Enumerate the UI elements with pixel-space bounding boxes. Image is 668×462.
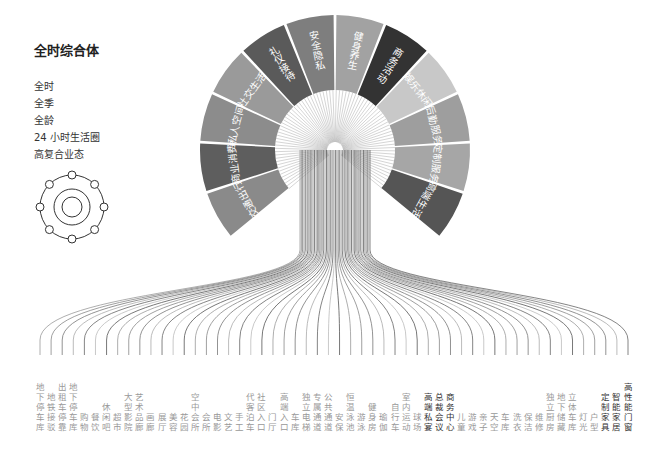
- flow-lines: [40, 150, 628, 355]
- bottom-label-char: 梯: [302, 422, 311, 432]
- bottom-label-char: 型: [590, 422, 599, 432]
- bottom-label-char: 车: [291, 412, 300, 422]
- bottom-label-char: 体: [568, 402, 577, 412]
- bottom-label-char: 厨: [546, 412, 555, 422]
- bottom-label-char: 租: [58, 392, 67, 402]
- diagram-canvas: 交通出行商业消费私人空间社交生活礼仪接待安全隐私健身养生商务活动娱乐休闲后勤服务…: [0, 0, 668, 462]
- bottom-label-char: 术: [135, 402, 144, 412]
- bottom-label-char: 所: [202, 422, 211, 432]
- bottom-label-char: 居: [612, 422, 621, 432]
- bottom-label-char: 社: [257, 392, 266, 402]
- bottom-label-char: 性: [624, 392, 633, 402]
- bottom-label-char: 中: [191, 402, 200, 412]
- bottom-label-char: 自: [391, 402, 400, 412]
- bottom-label-char: 私: [424, 412, 433, 422]
- bottom-label-char: 车: [246, 422, 255, 432]
- bottom-label-char: 空: [490, 422, 499, 432]
- bottom-label-char: 画: [146, 412, 155, 422]
- bottom-label-char: 中: [446, 412, 455, 422]
- bottom-label-char: 库: [69, 422, 78, 432]
- bottom-label-char: 高: [624, 382, 633, 392]
- bottom-label-char: 会: [202, 412, 211, 422]
- bottom-label-char: 家: [612, 412, 621, 422]
- bottom-label-char: 保: [524, 412, 533, 422]
- bottom-label-char: 口: [257, 422, 266, 432]
- bottom-label-char: 立: [568, 392, 577, 402]
- bottom-label-char: 安: [335, 412, 344, 422]
- bottom-label-char: 容: [169, 422, 178, 432]
- bottom-label-char: 场: [413, 422, 422, 432]
- bottom-label-char: 电: [302, 412, 311, 422]
- bottom-label-char: 通: [313, 412, 322, 422]
- bottom-label-char: 端: [280, 402, 289, 412]
- bottom-label-char: 通: [324, 412, 333, 422]
- bottom-label-char: 藏: [557, 422, 566, 432]
- bottom-label-char: 能: [612, 402, 621, 412]
- bottom-label-char: 行: [391, 412, 400, 422]
- bottom-label-char: 独: [546, 392, 555, 402]
- bottom-label-char: 艺: [224, 422, 233, 432]
- bottom-label-char: 室: [402, 392, 411, 402]
- bottom-label-char: 修: [535, 422, 544, 432]
- bottom-label-char: 文: [224, 412, 233, 422]
- bottom-label-char: 保: [335, 422, 344, 432]
- bottom-label-char: 健: [368, 402, 377, 412]
- bottom-label-char: 户: [590, 412, 599, 422]
- bottom-label-char: 大: [124, 392, 133, 402]
- bottom-label-char: 公: [324, 392, 333, 402]
- bottom-label-char: 驳: [47, 422, 56, 432]
- bottom-label-char: 总: [435, 392, 444, 402]
- bottom-label-char: 口: [280, 422, 289, 432]
- bottom-label-char: 储: [557, 412, 566, 422]
- bottom-label-char: 入: [257, 412, 266, 422]
- bottom-label-char: 厅: [158, 422, 167, 432]
- bottom-label-char: 道: [313, 422, 322, 432]
- bottom-label-char: 车: [58, 402, 67, 412]
- bottom-label-char: 戏: [468, 422, 477, 432]
- bottom-label-char: 地: [36, 382, 45, 392]
- bottom-label-char: 身: [368, 412, 377, 422]
- bottom-label-char: 出: [58, 382, 67, 392]
- bottom-label-char: 会: [435, 412, 444, 422]
- bottom-label-char: 购: [80, 412, 89, 422]
- bottom-label-char: 市: [113, 422, 122, 432]
- bottom-label-char: 客: [246, 402, 255, 412]
- bottom-label-char: 高: [424, 392, 433, 402]
- bottom-label-char: 裁: [435, 402, 444, 412]
- bottom-label-char: 入: [280, 412, 289, 422]
- bottom-label-char: 游: [357, 412, 366, 422]
- bottom-label-char: 道: [324, 422, 333, 432]
- bottom-label-char: 下: [36, 392, 45, 402]
- bottom-label-char: 车: [568, 412, 577, 422]
- bottom-label-char: 所: [191, 422, 200, 432]
- bottom-label-char: 廊: [146, 422, 155, 432]
- bottom-label-char: 饮: [91, 422, 100, 432]
- bottom-label-char: 端: [424, 402, 433, 412]
- bottom-label-char: 车: [391, 422, 400, 432]
- bottom-label-char: 衣: [513, 422, 522, 432]
- bottom-label-char: 影: [124, 412, 133, 422]
- bottom-label-char: 动: [402, 422, 411, 432]
- bottom-label-char: 议: [435, 422, 444, 432]
- bottom-label-char: 智: [612, 392, 621, 402]
- bottom-label-char: 手: [235, 412, 244, 422]
- bottom-label-char: 游: [468, 412, 477, 422]
- bottom-label-char: 车: [36, 412, 45, 422]
- bottom-label-char: 立: [302, 402, 311, 412]
- bottom-label-char: 泳: [357, 422, 366, 432]
- bottom-label-char: 铁: [47, 402, 56, 412]
- fan-chart: 交通出行商业消费私人空间社交生活礼仪接待安全隐私健身养生商务活动娱乐休闲后勤服务…: [200, 15, 470, 236]
- bottom-label-char: 光: [579, 422, 588, 432]
- bottom-label-char: 库: [291, 422, 300, 432]
- bottom-label-char: 定: [601, 392, 610, 402]
- bottom-label-char: 吧: [102, 422, 111, 432]
- bottom-label-char: 院: [124, 422, 133, 432]
- bottom-label-char: 门: [268, 412, 277, 422]
- bottom-label-char: 运: [402, 412, 411, 422]
- bottom-label-char: 地: [557, 392, 566, 402]
- bottom-label-char: 洗: [513, 412, 522, 422]
- bottom-label-char: 商: [446, 392, 455, 402]
- bottom-label-char: 天: [490, 412, 499, 422]
- bottom-label-char: 制: [601, 402, 610, 412]
- bottom-label-char: 会: [191, 412, 200, 422]
